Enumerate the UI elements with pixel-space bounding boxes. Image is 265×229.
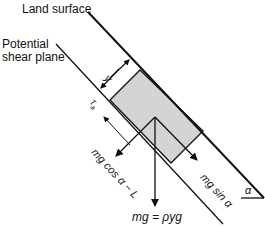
slope-diagram: Land surface Potential shear plane y τa … [0,0,265,229]
shear-stress-arrow [104,117,130,145]
shear-plane-label-2: shear plane [2,51,65,64]
land-surface-label: Land surface [22,3,91,16]
weight-label: mg = ρyg [132,211,182,224]
slope-angle-label: α [245,184,251,197]
